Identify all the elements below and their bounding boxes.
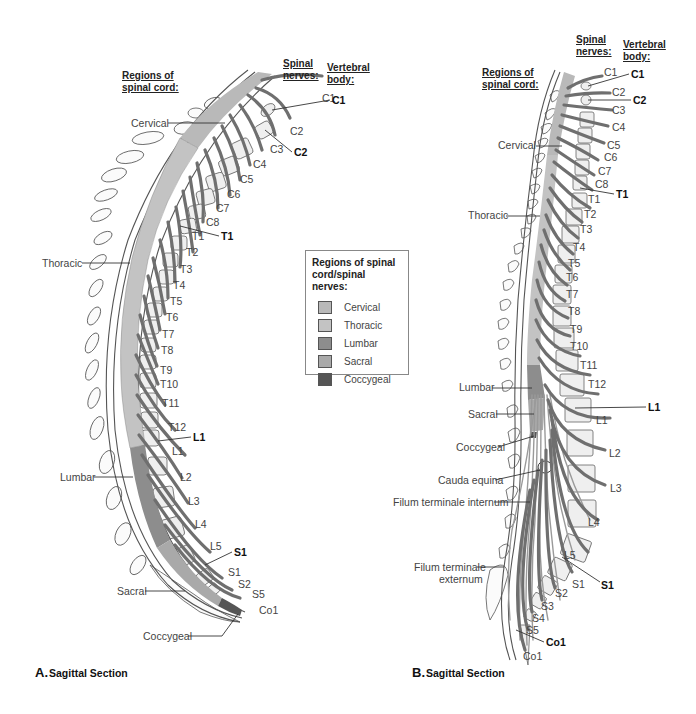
svg-text:C5: C5 <box>240 173 254 185</box>
panel-b: Regions of spinal cord: Spinal nerves: V… <box>393 34 666 680</box>
svg-text:L3: L3 <box>610 482 622 494</box>
svg-text:T8: T8 <box>161 344 173 356</box>
svg-text:L1: L1 <box>648 401 660 413</box>
svg-text:C3: C3 <box>612 104 626 116</box>
svg-text:L4: L4 <box>588 516 600 528</box>
svg-text:T9: T9 <box>570 323 582 335</box>
svg-text:T1: T1 <box>616 188 628 200</box>
svg-text:T9: T9 <box>160 364 172 376</box>
header-nerves-a-2: nerves: <box>283 70 319 81</box>
legend-item-sacral: Sacral <box>312 352 402 370</box>
svg-text:L1: L1 <box>172 445 184 457</box>
caption-letter-b: B. <box>412 665 425 680</box>
svg-text:Co1: Co1 <box>523 650 542 662</box>
svg-text:T7: T7 <box>162 328 174 340</box>
svg-text:S2: S2 <box>555 587 568 599</box>
svg-text:L5: L5 <box>210 540 222 552</box>
svg-text:C1: C1 <box>604 66 618 78</box>
svg-text:T3: T3 <box>180 263 192 275</box>
svg-text:T12: T12 <box>588 378 606 390</box>
cord-lumbar-b <box>527 365 545 400</box>
svg-text:T3: T3 <box>580 223 592 235</box>
svg-text:S1: S1 <box>601 579 614 591</box>
svg-text:C8: C8 <box>595 178 609 190</box>
svg-text:C5: C5 <box>607 139 621 151</box>
header-body-a: Vertebral <box>327 62 370 73</box>
svg-text:T10: T10 <box>160 378 178 390</box>
svg-text:T5: T5 <box>170 295 182 307</box>
svg-text:S2: S2 <box>238 578 251 590</box>
region-label-cervical-a: Cervical <box>131 117 169 129</box>
svg-text:L2: L2 <box>180 471 192 483</box>
legend-item-thoracic: Thoracic <box>312 316 402 334</box>
header-nerves-b: Spinal <box>576 34 606 45</box>
svg-text:C2: C2 <box>290 125 304 137</box>
svg-text:S5: S5 <box>252 588 265 600</box>
svg-text:S4: S4 <box>532 612 545 624</box>
region-label-lumbar-b: Lumbar <box>459 381 495 393</box>
svg-text:T2: T2 <box>186 246 198 258</box>
header-body-b: Vertebral <box>623 39 666 50</box>
legend: Regions of spinal cord/spinal nerves: Ce… <box>305 250 409 375</box>
svg-text:T12: T12 <box>168 421 186 433</box>
swatch-coccygeal <box>318 373 332 386</box>
region-label-coccygeal-a: Coccygeal <box>143 630 192 642</box>
svg-text:C6: C6 <box>604 151 618 163</box>
swatch-cervical <box>318 301 332 314</box>
legend-item-coccygeal: Coccygeal <box>312 370 402 388</box>
region-label-cervical-b: Cervical <box>498 139 536 151</box>
svg-text:S3: S3 <box>541 600 554 612</box>
legend-item-cervical: Cervical <box>312 298 402 316</box>
svg-text:S1: S1 <box>234 546 247 558</box>
svg-text:T11: T11 <box>162 397 179 409</box>
svg-text:C8: C8 <box>206 216 220 228</box>
label-filum-terminale-internum: Filum terminale internum <box>393 496 509 508</box>
region-label-sacral-b: Sacral <box>468 408 498 420</box>
svg-text:C7: C7 <box>216 202 230 214</box>
header-regions-a-2: spinal cord: <box>122 82 179 93</box>
label-filum-terminale-externum-1: Filum terminale <box>414 561 486 573</box>
svg-text:C7: C7 <box>598 165 612 177</box>
header-nerves-a: Spinal <box>283 58 313 69</box>
svg-text:C2: C2 <box>294 146 308 158</box>
caption-letter-a: A. <box>35 665 48 680</box>
svg-text:T8: T8 <box>568 305 580 317</box>
region-label-thoracic-a: Thoracic <box>42 257 82 269</box>
header-body-a-2: body: <box>327 74 354 85</box>
label-cauda-equina: Cauda equina <box>438 474 504 486</box>
swatch-lumbar <box>318 337 332 350</box>
caption-text-a: Sagittal Section <box>49 667 128 679</box>
region-label-sacral-a: Sacral <box>117 585 147 597</box>
header-nerves-b-2: nerves: <box>576 46 612 57</box>
svg-text:Co1: Co1 <box>546 636 566 648</box>
svg-text:C4: C4 <box>253 158 267 170</box>
svg-text:S1: S1 <box>228 566 241 578</box>
svg-text:T2: T2 <box>584 208 596 220</box>
svg-text:T1: T1 <box>221 230 233 242</box>
header-regions-b-2: spinal cord: <box>482 79 539 90</box>
svg-text:T1: T1 <box>588 193 600 205</box>
header-regions-b: Regions of <box>482 67 534 78</box>
svg-text:C2: C2 <box>612 86 626 98</box>
svg-text:S5: S5 <box>526 624 539 636</box>
svg-text:L4: L4 <box>195 518 207 530</box>
svg-text:T11: T11 <box>580 359 597 371</box>
header-body-b-2: body: <box>623 51 650 62</box>
label-filum-terminale-externum-2: externum <box>439 573 483 585</box>
svg-text:S1: S1 <box>572 578 585 590</box>
svg-text:T10: T10 <box>570 340 588 352</box>
svg-text:T7: T7 <box>566 288 578 300</box>
svg-text:L3: L3 <box>188 495 200 507</box>
svg-text:T6: T6 <box>166 311 178 323</box>
svg-text:L1: L1 <box>193 431 205 443</box>
legend-title: Regions of spinal cord/spinal nerves: <box>312 257 402 293</box>
swatch-sacral <box>318 355 332 368</box>
svg-text:T6: T6 <box>566 271 578 283</box>
svg-text:L1: L1 <box>596 414 608 426</box>
region-label-lumbar-a: Lumbar <box>60 471 96 483</box>
header-regions-a: Regions of <box>122 70 174 81</box>
svg-text:Co1: Co1 <box>259 604 278 616</box>
svg-text:T4: T4 <box>573 241 585 253</box>
svg-text:T5: T5 <box>568 257 580 269</box>
caption-text-b: Sagittal Section <box>426 667 505 679</box>
